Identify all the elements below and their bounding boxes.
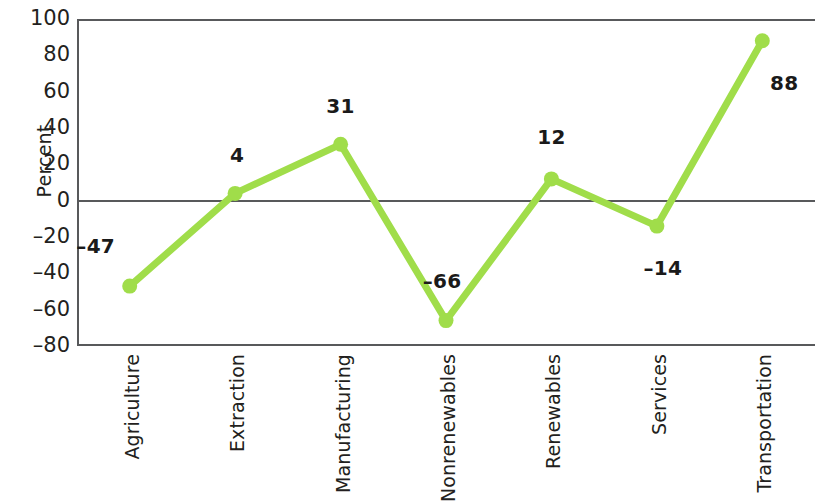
series-line — [77, 19, 815, 346]
y-tick-label: 40 — [14, 117, 70, 138]
data-point-label: –14 — [643, 256, 682, 280]
plot-area: –47431–6612–1488 — [77, 19, 815, 346]
y-tick-label: –20 — [14, 226, 70, 247]
data-point-label: 4 — [230, 143, 244, 167]
x-axis-category-labels: AgricultureExtractionManufacturingNonren… — [77, 346, 815, 494]
data-point-label: 88 — [770, 71, 798, 95]
y-tick-label: –40 — [14, 262, 70, 283]
y-tick-label: 80 — [14, 44, 70, 65]
y-tick-label: –60 — [14, 299, 70, 320]
data-point-label: 31 — [326, 94, 354, 118]
data-point-marker — [544, 171, 559, 186]
data-point-label: 12 — [537, 125, 565, 149]
y-tick-label: 0 — [14, 190, 70, 211]
x-category-label: Manufacturing — [332, 354, 354, 493]
data-point-marker — [649, 219, 664, 234]
y-tick-label: –80 — [14, 335, 70, 356]
y-axis-tick-labels: 100806040200–20–40–60–80 — [0, 0, 70, 494]
x-category-label: Renewables — [542, 354, 564, 469]
x-category-label: Nonrenewables — [437, 354, 459, 502]
data-point-marker — [439, 313, 454, 328]
x-category-label: Services — [648, 354, 670, 435]
data-point-label: –47 — [76, 234, 115, 258]
data-point-marker — [755, 33, 770, 48]
data-point-label: –66 — [423, 269, 462, 293]
y-tick-label: 100 — [14, 8, 70, 29]
y-tick-label: 60 — [14, 81, 70, 102]
y-tick-label: 20 — [14, 153, 70, 174]
x-category-label: Agriculture — [121, 354, 143, 460]
x-category-label: Transportation — [753, 354, 775, 493]
data-point-marker — [333, 137, 348, 152]
data-point-marker — [122, 279, 137, 294]
x-category-label: Extraction — [226, 354, 248, 452]
data-point-marker — [228, 186, 243, 201]
